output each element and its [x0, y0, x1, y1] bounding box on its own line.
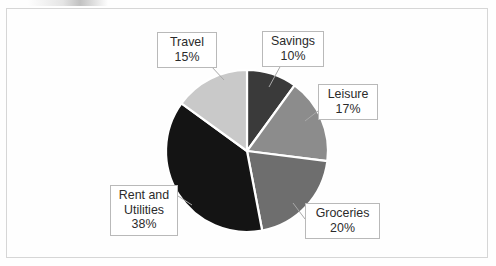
- data-label-groceries-percent: 20%: [310, 221, 375, 236]
- pie-chart: [0, 0, 496, 266]
- pie-slice-group: [166, 70, 328, 232]
- data-label-leisure: Leisure 17%: [318, 84, 378, 120]
- data-label-groceries: Groceries 20%: [305, 203, 380, 239]
- data-label-travel: Travel 15%: [157, 32, 217, 68]
- scanned-page: Savings 10% Leisure 17% Groceries 20% Re…: [0, 0, 496, 266]
- data-label-travel-category: Travel: [162, 35, 212, 50]
- data-label-leisure-percent: 17%: [323, 102, 373, 117]
- data-label-savings: Savings 10%: [262, 31, 324, 67]
- data-label-leisure-category: Leisure: [323, 87, 373, 102]
- data-label-rent-category-line1: Rent and: [115, 188, 173, 203]
- data-label-rent-and-utilities: Rent and Utilities 38%: [110, 185, 178, 236]
- data-label-travel-percent: 15%: [162, 50, 212, 65]
- data-label-rent-percent: 38%: [115, 217, 173, 232]
- data-label-groceries-category: Groceries: [310, 206, 375, 221]
- data-label-rent-category-line2: Utilities: [115, 203, 173, 218]
- data-label-savings-category: Savings: [267, 34, 319, 49]
- data-label-savings-percent: 10%: [267, 49, 319, 64]
